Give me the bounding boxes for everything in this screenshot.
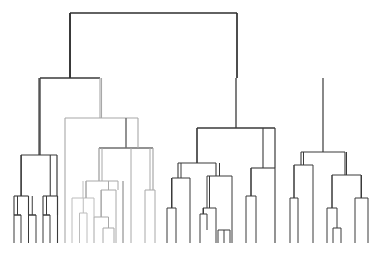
- dendrogram-canvas: [0, 0, 390, 261]
- dendrogram-figure: [0, 0, 390, 261]
- figure-background: [0, 0, 390, 261]
